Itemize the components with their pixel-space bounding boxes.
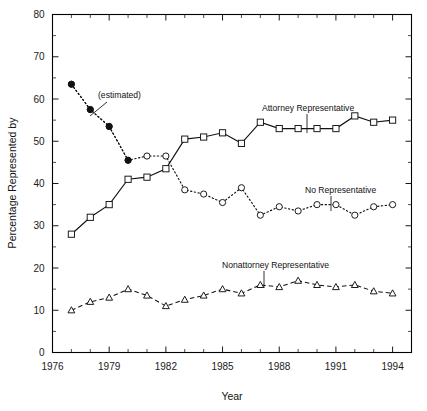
x-tick-label: 1988 <box>268 361 291 372</box>
y-tick-label: 80 <box>33 9 45 20</box>
data-point <box>163 166 169 172</box>
data-point <box>314 125 320 131</box>
data-point <box>257 119 263 125</box>
data-point <box>125 176 131 182</box>
y-tick-label: 20 <box>33 263 45 274</box>
y-axis-tick-labels: 01020304050607080 <box>33 9 45 358</box>
data-point <box>390 202 396 208</box>
data-point <box>201 191 207 197</box>
annotation-label: No Representative <box>305 185 376 195</box>
data-point <box>163 153 169 159</box>
data-point <box>106 202 112 208</box>
data-point <box>276 204 282 210</box>
x-tick-label: 1991 <box>325 361 348 372</box>
y-tick-label: 0 <box>39 347 45 358</box>
y-tick-label: 50 <box>33 136 45 147</box>
data-point <box>68 231 74 237</box>
x-tick-label: 1985 <box>211 361 234 372</box>
data-point <box>314 202 320 208</box>
data-point <box>276 125 282 131</box>
data-point <box>144 174 150 180</box>
data-point <box>238 185 244 191</box>
estimated-data-point <box>106 123 112 129</box>
data-point <box>182 136 188 142</box>
y-tick-label: 40 <box>33 178 45 189</box>
annotation-label: Nonattorney Representative <box>222 260 329 270</box>
x-axis-title: Year <box>221 390 243 402</box>
data-point <box>371 119 377 125</box>
data-point <box>295 125 301 131</box>
x-tick-label: 1994 <box>381 361 404 372</box>
chart-figure: 01020304050607080 1976197919821985198819… <box>0 0 427 411</box>
data-point <box>352 113 358 119</box>
data-point <box>390 117 396 123</box>
x-tick-label: 1976 <box>41 361 64 372</box>
estimated-data-point <box>68 81 74 87</box>
data-point <box>219 199 225 205</box>
data-point <box>257 212 263 218</box>
estimated-data-point <box>125 157 131 163</box>
annotation-label: (estimated) <box>98 90 141 100</box>
estimated-data-point <box>87 107 93 113</box>
y-tick-label: 70 <box>33 51 45 62</box>
data-point <box>219 130 225 136</box>
y-tick-label: 30 <box>33 220 45 231</box>
y-axis-title: Percentage Represented by <box>6 117 18 249</box>
y-tick-label: 60 <box>33 94 45 105</box>
data-point <box>201 134 207 140</box>
x-tick-label: 1979 <box>98 361 121 372</box>
data-point <box>352 212 358 218</box>
x-tick-label: 1982 <box>155 361 178 372</box>
chart-background <box>0 0 427 411</box>
y-tick-label: 10 <box>33 305 45 316</box>
data-point <box>333 125 339 131</box>
data-point <box>333 202 339 208</box>
annotation-label: Attorney Representative <box>262 103 354 113</box>
data-point <box>371 204 377 210</box>
data-point <box>295 208 301 214</box>
data-point <box>238 140 244 146</box>
line-chart: 01020304050607080 1976197919821985198819… <box>0 0 427 411</box>
data-point <box>182 187 188 193</box>
data-point <box>144 153 150 159</box>
data-point <box>87 214 93 220</box>
